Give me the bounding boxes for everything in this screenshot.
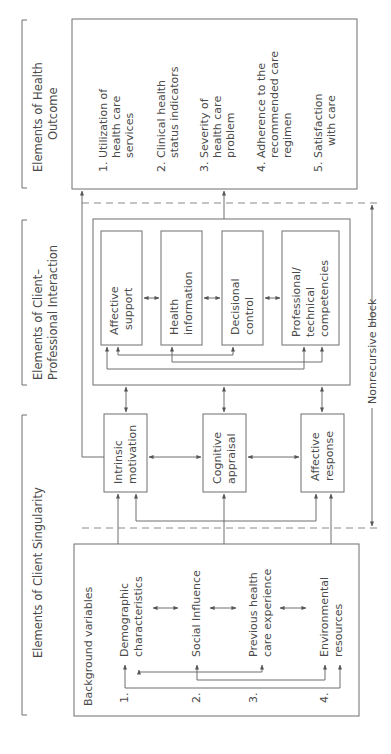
professional-competencies-line1: Professional/ — [290, 267, 303, 337]
background-variables-box — [74, 544, 359, 716]
header-singularity: Elements of Client Singularity — [31, 487, 45, 658]
section-bracket-outcome — [22, 20, 27, 188]
cognitive-appraisal-line2: appraisal — [225, 433, 238, 484]
outcome-item-3-line1: Severity of — [198, 97, 211, 158]
header-interaction-line2: Professional Interaction — [46, 245, 60, 380]
background-item-1-number: 1. — [118, 693, 131, 704]
outcome-item-4-line2: recommended care — [268, 51, 281, 158]
outcome-item-4-number: 4. — [255, 162, 268, 173]
outcome-item-2-line2: status indicators — [168, 66, 181, 158]
affective-support-line2: support — [122, 287, 135, 330]
header-outcome-line2: Outcome — [46, 88, 60, 141]
background-item-3-line2: care experience — [261, 568, 274, 657]
outcome-item-4-line1: Adherence to the — [255, 63, 268, 158]
outcome-item-2: 2. Clinical health status indicators — [155, 66, 181, 172]
health-information-line1: Health — [168, 299, 181, 335]
background-item-1-line1: Demographic — [118, 583, 131, 657]
professional-competencies-line2: technical — [304, 287, 317, 337]
intrinsic-motivation-line2: motivation — [126, 425, 139, 484]
outcome-item-3-number: 3. — [198, 162, 211, 173]
outcome-item-4-line3: regimen — [281, 112, 294, 158]
section-bracket-interaction — [22, 220, 27, 385]
section-bracket-singularity — [22, 415, 27, 715]
header-interaction-line1: Elements of Client– — [31, 269, 45, 380]
health-information-line2: information — [182, 271, 195, 335]
background-item-2-number: 2. — [190, 693, 203, 704]
affective-response-line2: response — [323, 431, 336, 481]
outcome-item-2-number: 2. — [155, 162, 168, 173]
outcome-item-1-line2: health care — [110, 96, 123, 158]
outcome-item-2-line1: Clinical health — [155, 80, 168, 158]
outcome-item-1-line3: services — [123, 113, 136, 158]
outcome-item-5-number: 5. — [312, 162, 325, 173]
background-item-2-line1: Social Influence — [190, 570, 203, 657]
background-item-3-number: 3. — [247, 693, 260, 704]
intrinsic-motivation-line1: Intrinsic — [112, 440, 125, 484]
background-item-3-line1: Previous health — [247, 572, 260, 657]
outcome-item-3-line3: problem — [224, 112, 237, 158]
decisional-control-line2: control — [243, 297, 256, 335]
affective-response-line1: Affective — [309, 432, 322, 481]
outcome-item-5-line1: Satisfaction — [312, 93, 325, 158]
professional-competencies-line3: competencies — [318, 260, 331, 337]
affective-support-line1: Affective — [108, 286, 121, 335]
background-item-4-line1: Environmental — [318, 577, 331, 657]
health-outcome-model-diagram: Elements of Health Outcome Elements of C… — [0, 0, 391, 754]
outcome-item-1-line1: Utilization of — [97, 88, 110, 158]
background-item-1-line2: characteristics — [132, 576, 145, 657]
cognitive-appraisal-line1: Cognitive — [211, 432, 224, 484]
background-item-4-number: 4. — [318, 693, 331, 704]
background-item-4-line2: resources — [332, 603, 345, 657]
outcome-item-1-number: 1. — [97, 162, 110, 173]
loop-motivation-response — [136, 494, 316, 521]
decisional-control-line1: Decisional — [229, 278, 242, 335]
nonrecursive-block-label: Nonrecursive block — [366, 298, 379, 404]
header-outcome-line1: Elements of Health — [31, 62, 45, 172]
outcome-item-5-line2: with care — [325, 95, 338, 146]
outcome-item-3-line2: health care — [211, 96, 224, 158]
background-variables-title: Background variables — [82, 587, 95, 706]
